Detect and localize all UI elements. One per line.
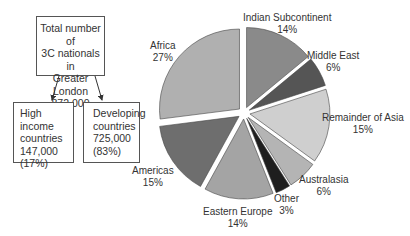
label-australasia: Australasia6% bbox=[299, 174, 348, 198]
label-eastern-europe: Eastern Europe14% bbox=[203, 206, 273, 230]
label-indian-subcontinent: Indian Subcontinent14% bbox=[243, 12, 331, 36]
label-africa: Africa27% bbox=[150, 40, 176, 64]
arrow-high-income bbox=[52, 76, 59, 100]
label-middle-east: Middle East6% bbox=[307, 50, 359, 74]
arrow-developing bbox=[95, 76, 102, 100]
label-remainder-of-asia: Remainder of Asia15% bbox=[322, 112, 404, 136]
label-americas: Americas15% bbox=[132, 165, 174, 189]
label-other: Other3% bbox=[274, 193, 299, 217]
